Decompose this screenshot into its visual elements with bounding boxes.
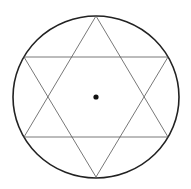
upward-triangle bbox=[24, 16, 168, 137]
hexagram-diagram bbox=[0, 0, 191, 189]
downward-triangle bbox=[24, 57, 168, 177]
center-dot bbox=[93, 94, 98, 99]
